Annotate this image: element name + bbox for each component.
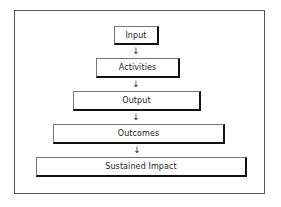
arrow-down-icon: ↓: [130, 111, 142, 123]
arrow-down-icon: ↓: [130, 45, 142, 57]
node-outcomes-label: Outcomes: [118, 129, 159, 138]
node-output-label: Output: [122, 96, 150, 105]
arrow-down-icon: ↓: [130, 78, 142, 90]
node-input: Input: [114, 26, 159, 45]
node-sustained-impact-label: Sustained Impact: [105, 162, 176, 171]
node-input-label: Input: [125, 31, 146, 40]
node-activities: Activities: [96, 58, 180, 78]
node-sustained-impact: Sustained Impact: [36, 157, 247, 177]
arrow-down-icon: ↓: [131, 144, 143, 156]
node-output: Output: [73, 91, 201, 111]
node-outcomes: Outcomes: [53, 124, 225, 144]
node-activities-label: Activities: [119, 63, 157, 72]
